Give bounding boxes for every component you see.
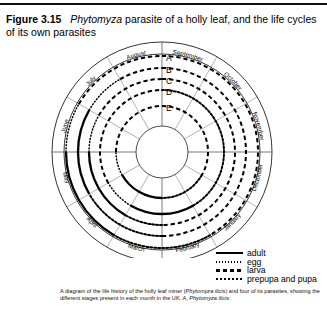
legend-swatch-egg: [216, 258, 243, 266]
legend-item: egg: [216, 258, 327, 267]
figure-number: Figure 3.15: [6, 13, 61, 25]
ring-label: A: [166, 53, 172, 63]
legend-item: adult: [216, 249, 327, 258]
legend: adult egg larva prepupa and pupa: [216, 249, 327, 283]
figure-title-genus: Phytomyza: [70, 13, 122, 25]
legend-label-prepupa-pupa: prepupa and pupa: [247, 275, 317, 284]
month-label: July: [84, 73, 98, 87]
ring-label: B: [166, 65, 172, 75]
radial-life-cycle-diagram: SeptemberOctoberNovemberDecemberJanuaryF…: [0, 33, 327, 258]
ring-label: C: [166, 76, 172, 86]
month-label: January: [222, 211, 243, 232]
ring-label: D: [166, 87, 172, 97]
caption-line1-a: A diagram of the life history of the hol…: [60, 288, 186, 294]
caption-line1-species: Phytomyza ilicis: [186, 288, 226, 294]
caption-line1-b: ) and four of its parasites,: [225, 288, 288, 294]
figure-caption: A diagram of the life history of the hol…: [60, 288, 325, 302]
caption-line2-species: Phytomyza ilicis: [189, 295, 229, 301]
legend-swatch-prepupa-pupa: [216, 275, 243, 283]
figure-page: Figure 3.15 Phytomyza parasite of a holl…: [0, 0, 327, 311]
ring-label: E: [166, 103, 172, 113]
legend-swatch-larva: [216, 266, 243, 274]
legend-swatch-adult: [216, 249, 243, 257]
caption-line2-b: :: [229, 295, 231, 301]
top-rule: [0, 3, 327, 5]
month-label: September: [172, 48, 204, 63]
legend-item: prepupa and pupa: [216, 275, 327, 284]
diagram-canvas: SeptemberOctoberNovemberDecemberJanuaryF…: [0, 33, 327, 258]
